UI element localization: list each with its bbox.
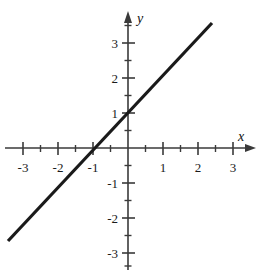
x-tick-label-neg2: -2	[43, 161, 73, 174]
coordinate-plane-svg	[0, 0, 259, 275]
x-tick-label-3: 3	[218, 161, 248, 174]
x-axis-arrowhead	[245, 144, 256, 152]
x-tick-label-2: 2	[183, 161, 213, 174]
y-tick-label-neg1: -1	[92, 177, 118, 190]
y-tick-label-neg2: -2	[92, 212, 118, 225]
graph-figure: x y -3 -2 -1 1 2 3 3 2 1 -1 -2 -3	[0, 0, 259, 275]
y-tick-label-1: 1	[92, 107, 118, 120]
x-tick-label-1: 1	[148, 161, 178, 174]
y-axis-label: y	[137, 12, 143, 26]
x-axis-label: x	[238, 130, 244, 144]
y-tick-label-2: 2	[92, 72, 118, 85]
y-tick-label-3: 3	[92, 37, 118, 50]
x-tick-label-neg3: -3	[8, 161, 38, 174]
x-tick-label-neg1: -1	[78, 161, 108, 174]
y-axis-arrowhead	[124, 11, 132, 23]
plotted-line	[8, 23, 212, 241]
y-tick-label-neg3: -3	[92, 247, 118, 260]
